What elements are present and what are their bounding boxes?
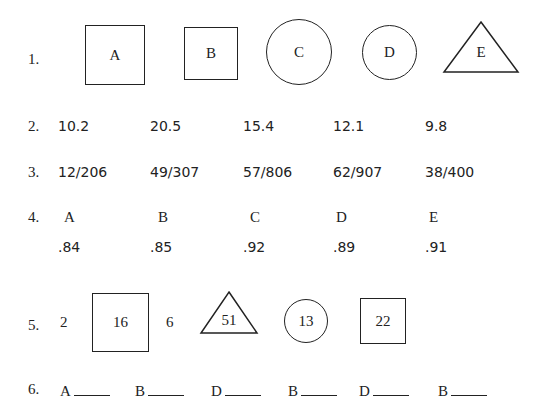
row-2-value: 9.8 [425,118,447,134]
row-6-letter: B [135,383,145,399]
row-2-label: 2. [28,118,39,135]
blank-line[interactable] [451,381,487,396]
answer-blank-2[interactable]: B [135,381,184,400]
row-6-letter: D [359,383,370,399]
blank-line[interactable] [148,381,184,396]
answer-blank-5[interactable]: D [359,381,409,400]
blank-line[interactable] [301,381,337,396]
row-3-value: 38/400 [425,164,474,180]
row-6-letter: A [60,383,71,399]
circle-shape-d: D [362,25,417,80]
shape-label: D [384,44,395,61]
triangle-shape-51: 51 [198,290,260,335]
row-3-label: 3. [28,164,39,181]
shape-value: 51 [198,312,260,329]
shape-label: A [110,47,121,64]
row-3-value: 49/307 [150,164,199,180]
row-1-label: 1. [28,51,39,68]
shape-value: 16 [113,314,128,331]
shape-value: 22 [376,313,391,330]
row-4-letter: C [250,209,260,226]
row-6-letter: B [438,383,448,399]
blank-line[interactable] [373,381,409,396]
shape-value: 13 [299,313,314,330]
row-4-value: .85 [150,239,172,255]
row-4-letter: D [336,209,347,226]
row-5-value: 2 [60,314,68,331]
triangle-shape-e: E [441,20,521,74]
row-2-value: 15.4 [243,118,274,134]
row-3-value: 62/907 [333,164,382,180]
square-shape-a: A [85,25,145,85]
row-4-letter: B [158,209,168,226]
circle-shape-13: 13 [284,299,328,343]
answer-blank-1[interactable]: A [60,381,110,400]
row-4-value: .91 [425,239,447,255]
square-shape-22: 22 [360,298,406,344]
row-4-value: .92 [243,239,265,255]
circle-shape-c: C [266,19,332,85]
row-4-letter: A [64,209,75,226]
row-2-value: 10.2 [58,118,89,134]
row-4-label: 4. [28,209,39,226]
row-3-value: 12/206 [58,164,107,180]
shape-label: B [206,45,216,62]
row-5-value: 6 [166,314,174,331]
answer-blank-6[interactable]: B [438,381,487,400]
blank-line[interactable] [225,381,261,396]
row-2-value: 12.1 [333,118,364,134]
row-4-value: .89 [333,239,355,255]
square-shape-16: 16 [92,293,149,352]
row-4-letter: E [429,209,438,226]
row-2-value: 20.5 [150,118,181,134]
square-shape-b: B [184,27,238,80]
row-4-value: .84 [58,239,80,255]
answer-blank-3[interactable]: D [211,381,261,400]
row-6-letter: B [288,383,298,399]
row-5-label: 5. [28,317,39,334]
row-3-value: 57/806 [243,164,292,180]
row-6-letter: D [211,383,222,399]
answer-blank-4[interactable]: B [288,381,337,400]
shape-label: C [294,44,304,61]
shape-label: E [441,44,521,61]
row-6-label: 6. [28,381,39,398]
blank-line[interactable] [74,381,110,396]
